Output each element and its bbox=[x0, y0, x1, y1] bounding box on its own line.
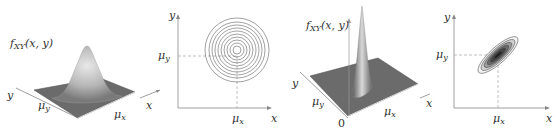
mu-y-label: μy bbox=[436, 49, 448, 62]
mu-x-label: μx bbox=[114, 109, 126, 122]
mu-x-label: μx bbox=[493, 113, 505, 126]
y-axis-label: y bbox=[7, 90, 13, 101]
y-axis-label: y bbox=[169, 10, 175, 21]
contour-plot-uncorrelated bbox=[140, 0, 280, 130]
panel-contour-uncorrelated: x y μy μx x bbox=[140, 0, 280, 130]
y-axis-label: y bbox=[444, 12, 450, 23]
stray-x-label: x bbox=[426, 98, 432, 109]
surface-plot-correlated bbox=[280, 0, 420, 130]
mu-x-label: μx bbox=[384, 106, 396, 119]
mu-x-label: μx bbox=[232, 113, 244, 126]
mu-y-label: μy bbox=[158, 50, 170, 63]
z-axis-label: fXY(x, y) bbox=[306, 20, 349, 33]
stray-x-label: x bbox=[146, 100, 152, 111]
contour-plot-correlated bbox=[420, 0, 560, 130]
y-axis-label: y bbox=[292, 78, 298, 89]
x-axis-label: x bbox=[271, 113, 277, 124]
origin-label: 0 bbox=[338, 118, 345, 129]
panel-surface-correlated: fXY(x, y) y μy 0 μx bbox=[280, 0, 420, 130]
mu-y-label: μy bbox=[312, 96, 324, 109]
x-axis-label: x bbox=[546, 113, 552, 124]
panel-contour-correlated: x y μy μx x bbox=[420, 0, 560, 130]
panel-surface-uncorrelated: fXY(x, y) y μy μx bbox=[0, 0, 140, 130]
z-axis-label: fXY(x, y) bbox=[10, 38, 53, 51]
mu-y-label: μy bbox=[38, 100, 50, 113]
